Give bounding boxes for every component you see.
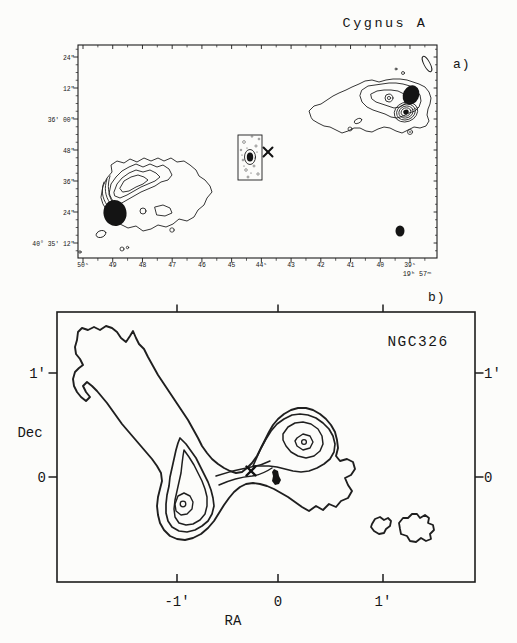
east-lobe-contours — [79, 158, 212, 253]
cross-marker-b — [247, 467, 256, 476]
ra-tick-label: 46 — [198, 262, 206, 269]
dec-tick-label: 12" — [63, 86, 75, 93]
left-tick-label: 1' — [29, 366, 46, 382]
ra-tick-label: 50ˢ — [77, 262, 89, 269]
panel-a-tag: a) — [453, 57, 471, 72]
panel-a-cygnus-map: Cygnus A a) 24" 12" 36' 00" 48" 36" 24" … — [0, 0, 517, 280]
panel-a-ra-tick-labels: 50ˢ 49 48 47 46 45 44ˢ 43 42 41 40 39ˢ 1… — [77, 262, 431, 278]
ra-tick-label: 43 — [287, 262, 295, 269]
left-tick-label: 0 — [38, 470, 46, 486]
detached-blobs — [371, 514, 434, 542]
ra-tick-label: 41 — [347, 262, 355, 269]
panel-b-axis-labels: 1' 0 1' 0 -1' 0 1' Dec RA — [17, 366, 500, 630]
bridge-contour-lines — [216, 461, 272, 485]
core-inset-box — [238, 135, 262, 180]
ra-tick-label: 45 — [228, 262, 236, 269]
panel-b-tag: b) — [428, 290, 446, 305]
west-lobe-contours — [309, 55, 434, 134]
bottom-tick-label: 0 — [274, 594, 282, 610]
ra-tick-label: 49 — [109, 262, 117, 269]
dec-tick-label: 36" — [63, 179, 75, 186]
dec-tick-label: 48" — [63, 148, 75, 155]
core-source — [247, 153, 253, 162]
right-tick-label: 1' — [484, 366, 501, 382]
ra-tick-label: 44ˢ — [256, 262, 268, 269]
nw-lobe-peak — [302, 440, 307, 445]
bottom-tick-label: 1' — [375, 594, 392, 610]
bottom-tick-label: -1' — [164, 594, 189, 610]
panel-a-axes-frame — [78, 45, 437, 258]
west-hotspot — [400, 83, 423, 108]
panel-a-dec-tick-labels: 24" 12" 36' 00" 48" 36" 24" 40° 35' 12" — [32, 55, 74, 248]
scanned-paper-figure: Cygnus A a) 24" 12" 36' 00" 48" 36" 24" … — [0, 0, 517, 643]
ra-tick-label: 40 — [376, 262, 384, 269]
panel-b-title: NGC326 — [387, 334, 448, 350]
ra-tick-label: 39ˢ — [404, 262, 416, 269]
ra-tick-label: 47 — [168, 262, 176, 269]
core-marker — [272, 469, 281, 485]
detached-contour-top-right — [420, 55, 433, 73]
panel-b-ngc326-map: b) NGC326 1' 0 1' 0 -1' 0 1' Dec RA — [0, 280, 517, 643]
ra-axis-title: RA — [225, 613, 242, 629]
beam-ellipse — [396, 226, 405, 237]
ra-axis-corner-label: 19ʰ 57ᵐ — [403, 270, 432, 278]
panel-a-title: Cygnus A — [343, 16, 428, 31]
dec-tick-label: 24" — [63, 210, 75, 217]
right-tick-label: 0 — [484, 470, 492, 486]
dec-tick-label: 40° 35' 12" — [32, 240, 74, 248]
dec-tick-label: 24" — [63, 55, 75, 62]
dec-axis-title: Dec — [17, 425, 42, 441]
ra-tick-label: 48 — [139, 262, 147, 269]
ra-tick-label: 42 — [317, 262, 325, 269]
se-lobe-peak — [180, 501, 186, 507]
dec-tick-label: 36' 00" — [48, 117, 75, 124]
cross-marker-a — [264, 148, 273, 157]
